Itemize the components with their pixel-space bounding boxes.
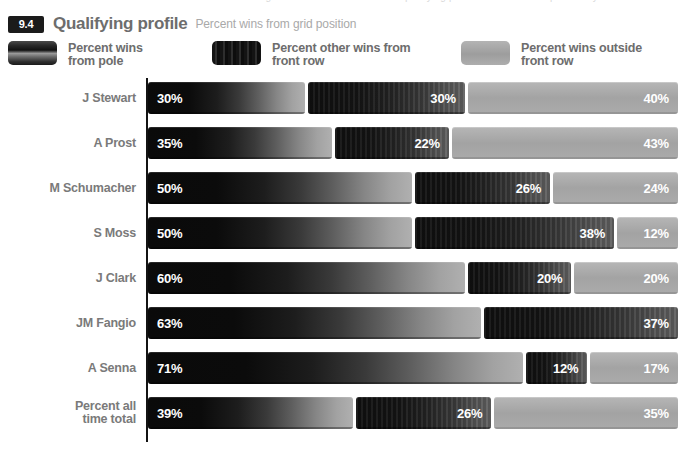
segment-value-label: 26%: [457, 406, 482, 421]
segment-percent-other-wins-from-front-row: 30%: [308, 82, 465, 114]
row-bar: 71%12%17%: [148, 352, 681, 384]
segment-percent-wins-from-pole: 60%: [148, 262, 465, 294]
segment-value-label: 20%: [537, 271, 562, 286]
segment-percent-other-wins-from-front-row: 38%: [415, 217, 615, 249]
segment-percent-wins-outside-front-row: 20%: [574, 262, 678, 294]
segment-value-label: 50%: [157, 226, 182, 241]
row-label: J Clark: [0, 262, 136, 294]
segment-value-label: 63%: [157, 316, 182, 331]
segment-percent-other-wins-from-front-row: 20%: [468, 262, 572, 294]
segment-value-label: 17%: [644, 361, 669, 376]
legend-item-percent-wins-from-pole: Percent wins from pole: [8, 41, 143, 68]
segment-value-label: 20%: [644, 271, 669, 286]
segment-value-label: 39%: [157, 406, 182, 421]
segment-percent-other-wins-from-front-row: 26%: [356, 397, 492, 429]
segment-value-label: 30%: [430, 91, 455, 106]
segment-percent-wins-outside-front-row: 17%: [590, 352, 678, 384]
segment-value-label: 43%: [644, 136, 669, 151]
row-bar: 50%38%12%: [148, 217, 681, 249]
segment-percent-wins-outside-front-row: 43%: [452, 127, 678, 159]
segment-value-label: 35%: [644, 406, 669, 421]
pole-swatch-icon: [8, 41, 57, 65]
chart-row: J Clark60%20%20%: [0, 262, 695, 294]
segment-value-label: 30%: [157, 91, 182, 106]
row-bar: 35%22%43%: [148, 127, 681, 159]
clipped-top-text: significant correlation between qualifyi…: [258, 0, 654, 2]
clipped-top-text-strip: significant correlation between qualifyi…: [0, 0, 695, 9]
row-bar: 50%26%24%: [148, 172, 681, 204]
chart-row: M Schumacher50%26%24%: [0, 172, 695, 204]
chart-legend: Percent wins from pole Percent other win…: [0, 40, 695, 72]
segment-value-label: 35%: [157, 136, 182, 151]
segment-percent-wins-from-pole: 50%: [148, 217, 412, 249]
row-label: A Senna: [0, 352, 136, 384]
legend-label: Percent wins outside front row: [521, 41, 642, 68]
row-bar: 30%30%40%: [148, 82, 681, 114]
segment-percent-wins-from-pole: 71%: [148, 352, 523, 384]
legend-label: Percent other wins from front row: [272, 41, 411, 68]
chart-row: S Moss50%38%12%: [0, 217, 695, 249]
segment-percent-other-wins-from-front-row: 22%: [335, 127, 449, 159]
row-bar: 60%20%20%: [148, 262, 681, 294]
chart-row: J Stewart30%30%40%: [0, 82, 695, 114]
segment-percent-wins-outside-front-row: 12%: [617, 217, 678, 249]
segment-value-label: 26%: [516, 181, 541, 196]
row-label: S Moss: [0, 217, 136, 249]
page-title: Qualifying profile: [53, 14, 187, 34]
segment-value-label: 71%: [157, 361, 182, 376]
stacked-bar-chart: J Stewart30%30%40%A Prost35%22%43%M Schu…: [0, 78, 695, 448]
segment-value-label: 60%: [157, 271, 182, 286]
chart-row: JM Fangio63%37%: [0, 307, 695, 339]
segment-percent-other-wins-from-front-row: 37%: [484, 307, 678, 339]
segment-percent-wins-from-pole: 50%: [148, 172, 412, 204]
segment-percent-other-wins-from-front-row: 26%: [415, 172, 551, 204]
segment-percent-wins-from-pole: 35%: [148, 127, 332, 159]
segment-percent-wins-outside-front-row: 35%: [494, 397, 678, 429]
segment-value-label: 40%: [644, 91, 669, 106]
segment-percent-wins-from-pole: 30%: [148, 82, 305, 114]
legend-item-percent-wins-outside-front-row: Percent wins outside front row: [461, 41, 642, 68]
chart-header: 9.4 Qualifying profile Percent wins from…: [0, 13, 695, 35]
row-label: JM Fangio: [0, 307, 136, 339]
segment-value-label: 12%: [644, 226, 669, 241]
segment-percent-wins-outside-front-row: 24%: [553, 172, 678, 204]
segment-value-label: 12%: [553, 361, 578, 376]
segment-value-label: 24%: [644, 181, 669, 196]
segment-value-label: 50%: [157, 181, 182, 196]
chart-row: Percent all time total39%26%35%: [0, 397, 695, 429]
segment-percent-wins-from-pole: 63%: [148, 307, 481, 339]
chart-row: A Prost35%22%43%: [0, 127, 695, 159]
row-label: Percent all time total: [0, 397, 136, 429]
front-row-swatch-icon: [212, 41, 261, 65]
segment-percent-other-wins-from-front-row: 12%: [526, 352, 587, 384]
segment-percent-wins-from-pole: 39%: [148, 397, 353, 429]
row-label: J Stewart: [0, 82, 136, 114]
segment-value-label: 38%: [580, 226, 605, 241]
outside-front-row-swatch-icon: [461, 41, 510, 65]
score-badge: 9.4: [8, 16, 44, 33]
segment-value-label: 22%: [414, 136, 439, 151]
segment-value-label: 37%: [644, 316, 669, 331]
chart-row: A Senna71%12%17%: [0, 352, 695, 384]
legend-item-percent-other-wins-from-front-row: Percent other wins from front row: [212, 41, 411, 68]
row-bar: 39%26%35%: [148, 397, 681, 429]
row-label: A Prost: [0, 127, 136, 159]
segment-percent-wins-outside-front-row: 40%: [468, 82, 678, 114]
page-subtitle: Percent wins from grid position: [195, 17, 356, 31]
row-bar: 63%37%: [148, 307, 681, 339]
legend-label: Percent wins from pole: [68, 41, 143, 68]
row-label: M Schumacher: [0, 172, 136, 204]
